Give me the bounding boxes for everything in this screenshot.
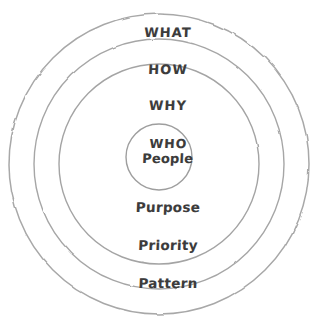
ring-label-priority: Priority [0,238,336,253]
concentric-circles-diagram: WHAT HOW WHY WHO People Purpose Priority… [0,0,336,329]
ring-label-why: WHY [0,99,336,113]
ring-label-people: People [0,152,336,167]
core-label-group: WHO People [0,137,336,167]
ring-label-how: HOW [0,63,336,77]
ring-label-purpose: Purpose [0,200,336,215]
ring-label-what: WHAT [0,26,336,40]
ring-label-who: WHO [0,137,336,151]
ring-label-pattern: Pattern [0,276,336,291]
